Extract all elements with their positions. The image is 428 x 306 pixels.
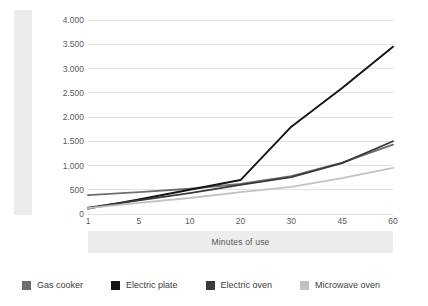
x-axis-tick-label: 60 [388, 216, 397, 226]
y-axis-tick-label: 2.500 [40, 88, 84, 98]
y-axis-tick-label: 1.000 [40, 161, 84, 171]
legend-item[interactable]: Gas cooker [22, 280, 83, 290]
y-axis-tick-label: 500 [40, 185, 84, 195]
legend-swatch-icon [206, 281, 215, 290]
legend-swatch-icon [111, 281, 120, 290]
x-axis-tick-label: 5 [136, 216, 141, 226]
x-axis-tick-label: 1 [86, 216, 91, 226]
y-axis-tick-labels: 05001.0001.5002.0002.5003.0003.5004.000 [40, 20, 84, 214]
x-axis-title-band: Minutes of use [88, 231, 393, 253]
legend-item[interactable]: Electric oven [206, 280, 273, 290]
legend-item[interactable]: Electric plate [111, 280, 178, 290]
legend-item[interactable]: Microwave oven [300, 280, 380, 290]
y-axis-tick-label: 1.500 [40, 136, 84, 146]
x-axis-title: Minutes of use [211, 237, 269, 247]
x-axis-tick-labels: 151020304560 [88, 216, 393, 230]
chart-legend: Gas cookerElectric plateElectric ovenMic… [22, 276, 418, 294]
legend-swatch-icon [300, 281, 309, 290]
y-axis-tick-label: 0 [40, 209, 84, 219]
legend-swatch-icon [22, 281, 31, 290]
series-line [88, 145, 393, 195]
y-axis-title-band [14, 10, 32, 215]
series-line [88, 168, 393, 208]
legend-label: Electric oven [221, 280, 273, 290]
line-chart: Grams of CO2 eq 05001.0001.5002.0002.500… [0, 0, 428, 306]
y-axis-tick-label: 4.000 [40, 15, 84, 25]
series-line [88, 141, 393, 207]
plot-area [88, 20, 393, 214]
y-axis-tick-label: 2.000 [40, 112, 84, 122]
x-axis-tick-label: 20 [236, 216, 245, 226]
x-axis-tick-label: 30 [287, 216, 296, 226]
legend-label: Microwave oven [315, 280, 380, 290]
legend-label: Gas cooker [37, 280, 83, 290]
x-axis-tick-label: 10 [185, 216, 194, 226]
y-axis-tick-label: 3.000 [40, 64, 84, 74]
legend-label: Electric plate [126, 280, 178, 290]
y-axis-tick-label: 3.500 [40, 39, 84, 49]
x-axis-tick-label: 45 [337, 216, 346, 226]
y-axis-title: Grams of CO2 eq [14, 0, 32, 28]
plot-svg [88, 20, 393, 214]
